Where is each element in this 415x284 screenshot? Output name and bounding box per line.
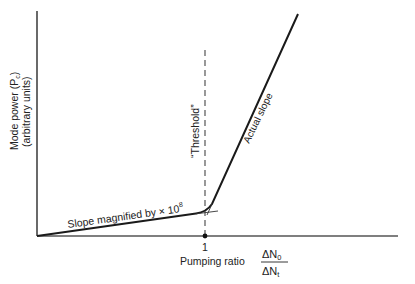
y-axis-label-units: (arbitrary units) <box>20 76 32 147</box>
svg-text:Actual slope: Actual slope <box>241 91 275 145</box>
actual-slope-annotation: Actual slope <box>241 91 275 145</box>
threshold-annotation: “Threshold” <box>189 104 201 158</box>
slope-magnified-annotation: Slope magnified by × 108 <box>66 201 184 230</box>
x-axis-label: Pumping ratio <box>180 255 245 267</box>
svg-text:ΔNt: ΔNt <box>262 265 280 279</box>
svg-text:“Threshold”: “Threshold” <box>189 104 201 158</box>
svg-text:(arbitrary units): (arbitrary units) <box>20 76 32 147</box>
svg-text:Slope magnified by × 108: Slope magnified by × 108 <box>66 201 184 230</box>
chart-canvas: Mode power (Pc) (arbitrary units) “Thres… <box>0 0 415 284</box>
x-axis-fraction: ΔN0 ΔNt <box>261 248 288 279</box>
threshold-dot <box>203 234 208 239</box>
x-tick-1: 1 <box>202 241 208 253</box>
svg-text:ΔN0: ΔN0 <box>262 248 281 262</box>
